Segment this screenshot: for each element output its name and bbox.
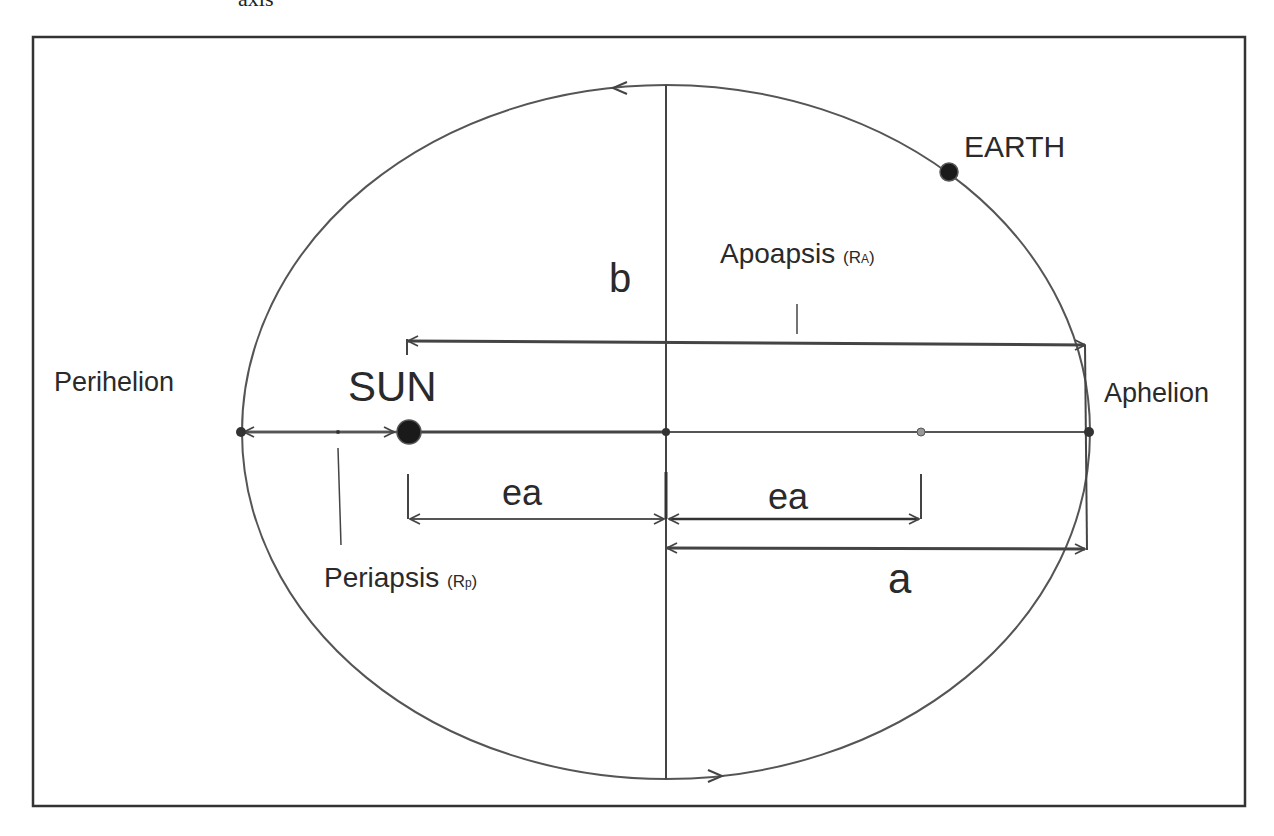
periapsis-text: Periapsis (324, 562, 439, 593)
focal-distance-left-label: ea (502, 475, 542, 511)
periapsis-leader (338, 448, 341, 545)
periapsis-symbol-main: R (453, 572, 465, 591)
earth-body (940, 163, 958, 181)
apoapsis-symbol: (RA) (843, 248, 875, 267)
semi-major-label: a (888, 558, 911, 600)
periapsis-symbol: (Rp) (447, 572, 477, 591)
sun-label: SUN (348, 366, 437, 408)
apoapsis-label: Apoapsis (RA) (720, 240, 875, 268)
semi-major-arrow (667, 548, 1085, 549)
orbit-diagram (0, 0, 1274, 836)
semi-minor-label: b (609, 258, 631, 298)
apoapsis-symbol-main: R (849, 248, 861, 267)
perihelion-label: Perihelion (54, 369, 174, 396)
apoapsis-symbol-close: ) (869, 248, 875, 267)
apoapsis-arrow (408, 341, 1085, 345)
center-point (662, 428, 670, 436)
periapsis-symbol-sub: p (465, 576, 472, 590)
periapsis-label: Periapsis (Rp) (324, 564, 477, 592)
periapsis-midpoint (336, 430, 340, 434)
focal-distance-right-label: ea (768, 479, 808, 515)
aphelion-label: Aphelion (1104, 380, 1209, 407)
empty-focus-point (917, 428, 925, 436)
aphelion-bracket (1085, 345, 1087, 550)
periapsis-symbol-close: ) (472, 572, 478, 591)
earth-label: EARTH (964, 132, 1065, 162)
aphelion-point (1084, 427, 1094, 437)
apoapsis-symbol-sub: A (861, 252, 869, 266)
apoapsis-text: Apoapsis (720, 238, 835, 269)
sun-body (397, 420, 421, 444)
perihelion-point (236, 427, 246, 437)
